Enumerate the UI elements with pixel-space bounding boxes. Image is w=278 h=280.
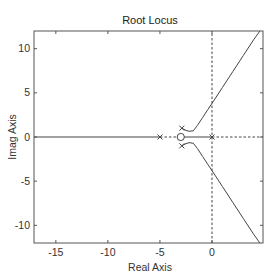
- root-locus-chart: Root Locus -15-10-50 -10-50510 Real Axis…: [0, 0, 278, 280]
- x-tick-label: 0: [209, 246, 215, 258]
- x-tick-label: -10: [100, 246, 115, 258]
- pole-marker-icon: [179, 126, 184, 131]
- y-tick-label: -5: [21, 175, 30, 187]
- pole-marker-icon: [179, 143, 184, 148]
- chart-title: Root Locus: [122, 14, 178, 26]
- plot-content: [34, 31, 263, 243]
- y-tick-label: 5: [24, 86, 30, 98]
- zero-marker-icon: [177, 133, 184, 140]
- branch-upper-line: [182, 31, 260, 131]
- y-axis-label: Imag Axis: [6, 114, 18, 160]
- x-axis-label: Real Axis: [128, 261, 172, 273]
- y-tick-label: 0: [24, 131, 30, 143]
- x-tick-label: -15: [48, 246, 63, 258]
- x-tick-label: -5: [155, 246, 164, 258]
- branch-lower-line: [182, 143, 260, 243]
- x-axis-ticks: -15-10-50: [48, 31, 215, 258]
- y-tick-label: 10: [18, 42, 30, 54]
- y-tick-label: -10: [15, 219, 30, 231]
- plot-area: [34, 31, 263, 243]
